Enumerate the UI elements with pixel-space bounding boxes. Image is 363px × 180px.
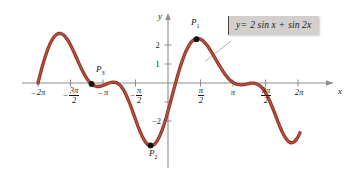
y-tick-label-2: 2 [153, 41, 162, 50]
equation-callout-box: y= 2 sin x + sin 2x [228, 16, 319, 35]
point-marker-p1 [194, 36, 200, 42]
y-axis-label: y [158, 11, 162, 21]
point-label-p3: P3 [96, 64, 105, 76]
y-axis-arrow [165, 13, 171, 20]
function-graph-figure: −2π −3π2 −π −π2 π2 π 3π2 2π 2 1 −2 y x P… [0, 0, 363, 180]
equation-term1: 2 sin x [250, 20, 276, 30]
equation-equals: = [240, 20, 247, 30]
x-tick-label-3pi-over-2: 3π2 [256, 86, 276, 105]
x-tick-label-pi-over-2: π2 [191, 86, 211, 105]
x-tick-label-2pi: 2π [289, 88, 309, 97]
equation-plus: + [278, 20, 285, 30]
x-axis-arrow [326, 80, 333, 86]
x-tick-label-neg-pi: −π [91, 88, 115, 97]
x-axis-label: x [338, 86, 342, 96]
y-tick-label-1: 1 [153, 60, 162, 69]
x-tick-label-neg-2pi: −2π [25, 88, 51, 97]
x-tick-label-neg-3pi-over-2: −3π2 [58, 86, 84, 105]
x-tick-label-pi: π [224, 88, 242, 97]
y-tick-label-neg-2: −2 [150, 117, 163, 126]
x-tick-label-neg-pi-over-2: −π2 [124, 86, 148, 105]
point-label-p2: P2 [149, 148, 158, 160]
callout-leader-line [205, 41, 231, 62]
point-label-p1: P1 [191, 17, 200, 29]
equation-term2: sin 2x [288, 20, 311, 30]
point-marker-p3 [89, 81, 95, 87]
